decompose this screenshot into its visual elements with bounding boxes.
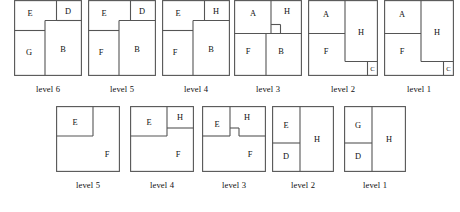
region-label: B	[208, 45, 214, 54]
region-label: D	[139, 7, 145, 16]
diagram-caption: level 5	[56, 180, 120, 190]
region-label: F	[173, 48, 178, 57]
outer-boundary	[15, 1, 82, 76]
diagram-caption: level 6	[14, 84, 82, 94]
floorplan-bottom-level-3: E H F	[202, 106, 266, 172]
region-label: E	[101, 9, 106, 18]
floorplan-top-level-3: A H F B	[234, 0, 302, 76]
region-label: H	[358, 28, 364, 37]
diagram-row-bottom: E F level 5 E H F	[0, 106, 460, 212]
floorplan-top-level-4: E H F B	[162, 0, 230, 76]
diagram-caption: level 4	[162, 84, 230, 94]
diagram-caption: level 4	[130, 180, 194, 190]
floorplan-bottom-level-2: E D H	[272, 106, 334, 172]
region-label: F	[248, 150, 253, 159]
region-label: E	[175, 9, 180, 18]
region-label: E	[214, 120, 219, 129]
region-label: H	[314, 135, 320, 144]
floorplan-figure: E D G B level 6 E	[0, 0, 460, 212]
floorplan-bottom-level-4: E H F	[130, 106, 194, 172]
region-label: C	[370, 65, 375, 72]
region-label: B	[60, 45, 66, 54]
region-label: A	[250, 9, 256, 18]
outer-boundary	[163, 1, 230, 76]
outer-boundary	[345, 107, 406, 172]
region-label: E	[72, 118, 77, 127]
region-label: H	[386, 135, 392, 144]
diagram-caption: level 3	[234, 84, 302, 94]
floorplan-top-level-2: A H F C	[308, 0, 378, 76]
region-label: F	[324, 47, 329, 56]
outer-boundary	[273, 107, 334, 172]
region-label: G	[355, 121, 361, 130]
region-label: D	[283, 152, 289, 161]
region-label: D	[355, 152, 361, 161]
floorplan-bottom-level-1: G D H	[344, 106, 406, 172]
region-label: B	[278, 47, 284, 56]
region-label: H	[244, 113, 250, 122]
region-label: G	[26, 48, 32, 57]
diagram-caption: level 1	[344, 180, 406, 190]
diagram-caption: level 2	[308, 84, 378, 94]
region-label: F	[99, 48, 104, 57]
region-label: E	[146, 118, 151, 127]
region-label: H	[434, 28, 440, 37]
diagram-caption: level 1	[384, 84, 454, 94]
region-label: F	[105, 150, 110, 159]
diagram-caption: level 2	[272, 180, 334, 190]
region-label: H	[177, 113, 183, 122]
outer-boundary	[131, 107, 194, 172]
region-label: H	[213, 7, 219, 16]
floorplan-top-level-5: E D F B	[88, 0, 156, 76]
region-label: F	[400, 47, 405, 56]
outer-boundary	[89, 1, 156, 76]
diagram-row-top: E D G B level 6 E	[0, 0, 460, 106]
region-label: H	[284, 7, 290, 16]
region-label: D	[65, 7, 71, 16]
region-label: F	[176, 150, 181, 159]
region-label: A	[323, 10, 329, 19]
floorplan-bottom-level-5: E F	[56, 106, 120, 172]
region-label: F	[246, 47, 251, 56]
region-label: E	[27, 9, 32, 18]
region-label: B	[134, 45, 140, 54]
floorplan-top-level-6: E D G B	[14, 0, 82, 76]
region-label: A	[399, 10, 405, 19]
diagram-caption: level 5	[88, 84, 156, 94]
outer-boundary	[203, 107, 266, 172]
outer-boundary	[235, 1, 302, 76]
outer-boundary	[57, 107, 120, 172]
floorplan-top-level-1: A H F C	[384, 0, 454, 76]
diagram-caption: level 3	[202, 180, 266, 190]
region-label: E	[283, 121, 288, 130]
region-label: C	[446, 65, 451, 72]
